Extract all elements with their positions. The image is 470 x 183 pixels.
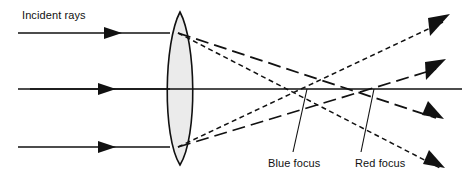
upper-blue-refracted-ray: [178, 33, 440, 168]
lower-red-refracted-ray: [178, 69, 436, 147]
lower-blue-arrow-icon: [428, 14, 450, 36]
upper-red-arrow-icon: [422, 101, 444, 119]
incident-rays-label: Incident rays: [22, 9, 86, 21]
lower-incident-arrow-icon: [98, 141, 116, 153]
ray-diagram-figure: Incident rays Blue focus Red focus: [0, 0, 470, 183]
upper-blue-arrow-icon: [423, 150, 445, 168]
lower-blue-refracted-ray: [178, 22, 443, 147]
upper-incident-arrow-icon: [104, 27, 122, 39]
blue-focus-label: Blue focus: [268, 157, 320, 169]
lower-red-arrow-icon: [425, 59, 446, 80]
red-focus-leader-line: [361, 89, 374, 152]
diagram-canvas: [0, 0, 470, 183]
axial-incident-arrow-icon: [98, 83, 116, 95]
upper-red-refracted-ray: [178, 33, 436, 118]
red-focus-label: Red focus: [355, 157, 405, 169]
blue-focus-leader-line: [293, 89, 307, 152]
